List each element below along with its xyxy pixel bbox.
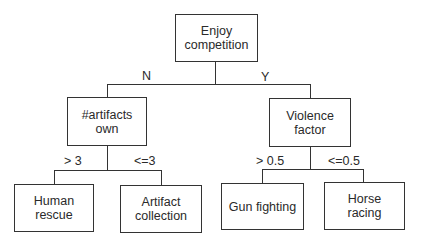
root-stem [215,62,216,84]
left-stem [107,146,108,170]
leaf-artifact-collection: Artifact collection [120,185,202,233]
left-level2-bar [54,170,162,171]
leaf-horse-racing-line2: racing [347,206,381,220]
left-leaf1-drop [54,170,55,184]
leaf-artifact-collection-line1: Artifact [135,195,187,209]
edge-label-artifacts-gt: > 3 [64,154,82,168]
node-violence-line2: factor [286,123,334,137]
leaf-human-rescue-line1: Human [34,194,74,208]
edge-label-artifacts-le: <=3 [134,154,156,168]
leaf-human-rescue: Human rescue [14,184,94,232]
edge-label-no: N [142,69,151,83]
edge-label-violence-gt: > 0.5 [256,154,284,168]
node-artifacts-own: #artifacts own [67,97,147,146]
node-violence-factor: Violence factor [269,98,351,147]
right-drop [310,84,311,98]
right-leaf1-drop [262,169,263,183]
node-violence-line1: Violence [286,109,334,123]
level1-bar [107,84,311,85]
leaf-artifact-collection-line2: collection [135,209,187,223]
leaf-gun-fighting: Gun fighting [221,183,304,230]
edge-label-violence-le: <=0.5 [328,154,360,168]
right-leaf2-drop [363,169,364,182]
root-node-line2: competition [185,38,249,52]
leaf-gun-fighting-line1: Gun fighting [229,200,296,214]
edge-label-yes: Y [261,70,269,84]
root-node-line1: Enjoy [185,24,249,38]
node-artifacts-line1: #artifacts [82,108,133,122]
leaf-horse-racing-line1: Horse [347,192,381,206]
node-artifacts-line2: own [82,122,133,136]
left-drop [107,84,108,97]
leaf-human-rescue-line2: rescue [34,208,74,222]
right-stem [310,147,311,169]
root-node-enjoy-competition: Enjoy competition [175,14,258,62]
left-leaf2-drop [161,170,162,185]
right-level2-bar [262,169,364,170]
leaf-horse-racing: Horse racing [324,182,405,230]
